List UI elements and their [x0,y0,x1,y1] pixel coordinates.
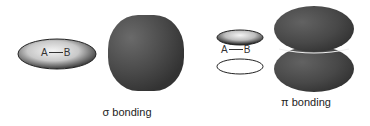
pi-electron-cloud [273,5,355,93]
sigma-electron-cloud [107,14,185,92]
bond-line [229,49,243,50]
atom-a-label: A [221,44,228,55]
pi-cloud-top-lobe [274,6,354,52]
atom-a-label: A [41,47,48,58]
sigma-caption: σ bonding [103,106,152,118]
atom-b-label: B [64,47,71,58]
bond-line [49,52,63,53]
pi-bond-label: A B [221,44,250,55]
pi-orbital-lower-lobe [216,58,264,75]
sigma-bond-label: A B [41,47,70,58]
atom-b-label: B [244,44,251,55]
pi-caption: π bonding [281,96,331,108]
